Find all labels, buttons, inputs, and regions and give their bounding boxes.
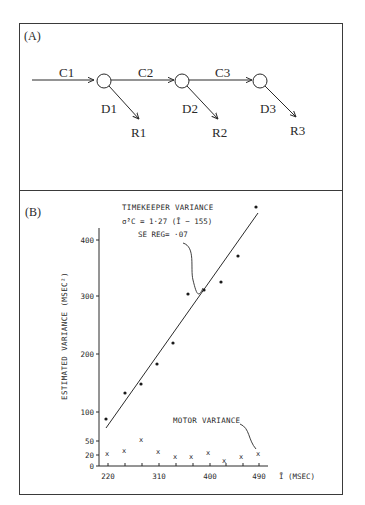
- data-point: [155, 362, 158, 365]
- data-point: [104, 417, 107, 420]
- data-point: [236, 254, 239, 257]
- motor-points: x x x x x x x x x x: [105, 436, 260, 465]
- motor-point: x: [189, 453, 193, 461]
- node-3: [253, 74, 267, 88]
- timekeeper-pointer: [183, 243, 203, 294]
- panel-b-label: (B): [25, 205, 41, 219]
- label-r2: R2: [212, 125, 227, 140]
- node-2: [175, 74, 189, 88]
- timekeeper-label: TIMEKEEPER VARIANCE: [122, 203, 214, 212]
- label-d3: D3: [260, 101, 276, 116]
- ytick-0: 0: [89, 462, 94, 471]
- motor-pointer: [240, 424, 256, 449]
- label-d2: D2: [182, 101, 198, 116]
- ytick-200: 200: [80, 350, 94, 359]
- data-point: [254, 205, 257, 208]
- motor-point: x: [122, 447, 126, 455]
- label-c2: C2: [138, 65, 153, 80]
- ytick-100: 100: [80, 408, 94, 417]
- figure: (A) C1 C2 C3 D1 R1 D2 R2 D3 R3 (B) TIMEK…: [0, 0, 365, 505]
- motor-point: x: [256, 450, 260, 458]
- x-axis-label: Ī (MSEC): [279, 472, 315, 481]
- motor-point: x: [222, 457, 226, 465]
- panel-b: (B) TIMEKEEPER VARIANCE σ̂²C = 1·27 (Ī −…: [25, 203, 315, 481]
- motor-point: x: [139, 436, 143, 444]
- xtick-220: 220: [101, 472, 115, 481]
- xtick-310: 310: [152, 472, 166, 481]
- regression-line: [106, 213, 258, 428]
- se-reg-label: SE REG= ·07: [138, 230, 188, 239]
- label-c1: C1: [59, 65, 74, 80]
- motor-point: x: [206, 449, 210, 457]
- motor-variance-label: MOTOR VARIANCE: [173, 416, 241, 425]
- y-axis-label: ESTIMATED VARIANCE (MSEC²): [60, 272, 69, 400]
- data-point: [171, 341, 174, 344]
- y-tick-labels: 400 300 200 100 50 20 0: [80, 236, 94, 471]
- motor-point: x: [156, 448, 160, 456]
- motor-point: x: [173, 453, 177, 461]
- panel-a: (A) C1 C2 C3 D1 R1 D2 R2 D3 R3: [24, 29, 305, 140]
- motor-point: x: [105, 450, 109, 458]
- label-c3: C3: [215, 65, 230, 80]
- motor-point: x: [239, 453, 243, 461]
- data-point: [219, 280, 222, 283]
- xtick-400: 400: [203, 472, 217, 481]
- xtick-490: 490: [252, 472, 266, 481]
- regression-equation: σ̂²C = 1·27 (Ī − 155): [122, 217, 212, 226]
- label-r1: R1: [131, 125, 146, 140]
- data-point: [202, 288, 205, 291]
- ytick-300: 300: [80, 292, 94, 301]
- data-point: [139, 382, 142, 385]
- label-d1: D1: [101, 101, 117, 116]
- node-1: [97, 74, 111, 88]
- ytick-50: 50: [85, 437, 95, 446]
- timekeeper-pointer-tail: [183, 243, 203, 292]
- x-tick-labels: 220 310 400 490: [101, 472, 266, 481]
- data-point: [123, 391, 126, 394]
- ytick-400: 400: [80, 236, 94, 245]
- panel-a-label: (A): [24, 29, 41, 43]
- label-r3: R3: [290, 123, 305, 138]
- ytick-20: 20: [85, 451, 95, 460]
- data-point: [186, 292, 189, 295]
